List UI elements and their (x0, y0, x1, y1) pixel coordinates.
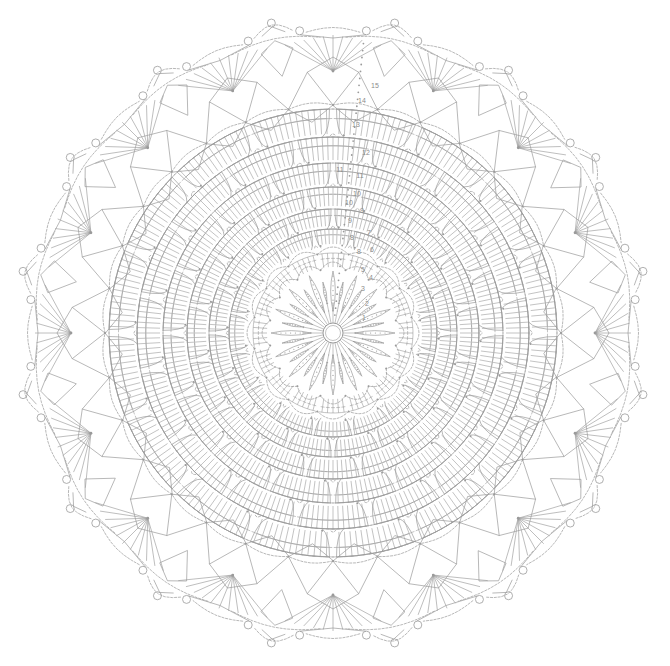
round-number-label: 9 (360, 207, 364, 214)
round-number-label: 1 (362, 314, 366, 321)
round-start-marker (359, 78, 361, 80)
round-start-marker (357, 98, 359, 100)
round-start-marker (335, 300, 337, 302)
round-start-marker (349, 168, 351, 170)
round-number-label: 15 (371, 82, 379, 89)
round-start-marker (361, 57, 363, 59)
round-start-marker (341, 245, 343, 247)
round-number-label: 12 (362, 149, 370, 156)
round-number-label: 8 (357, 248, 361, 255)
round-start-marker (352, 140, 354, 142)
doily-pattern-diagram: 123456789101112131415111098 (0, 0, 670, 666)
round-start-marker (337, 286, 339, 288)
round-start-marker (353, 133, 355, 135)
round-start-marker (342, 238, 344, 240)
round-start-marker (343, 231, 345, 233)
round-start-marker (360, 71, 362, 73)
round-start-marker (351, 154, 353, 156)
round-start-marker (355, 112, 357, 114)
round-number-label: 6 (370, 246, 374, 253)
round-start-marker (356, 105, 358, 107)
round-start-marker (357, 91, 359, 93)
round-number-label: 7 (367, 229, 371, 236)
round-start-marker (338, 279, 340, 281)
round-start-marker (358, 84, 360, 86)
round-start-marker (344, 217, 346, 219)
round-start-marker (340, 259, 342, 261)
round-number-label: 11 (356, 172, 363, 179)
round-number-label: 9 (348, 217, 352, 224)
round-number-label: 3 (361, 285, 365, 292)
round-number-label: 14 (358, 97, 366, 104)
round-start-marker (346, 196, 348, 198)
round-start-marker (354, 126, 356, 128)
round-number-label: 10 (345, 199, 353, 206)
round-number-label: 5 (361, 266, 365, 273)
round-start-marker (334, 314, 336, 316)
round-start-marker (338, 272, 340, 274)
round-start-marker (341, 252, 343, 254)
round-start-marker (347, 189, 349, 191)
round-start-marker (363, 43, 365, 45)
round-number-label: 8 (350, 234, 354, 241)
chart-background (0, 0, 670, 666)
round-start-marker (360, 64, 362, 66)
round-number-label: 4 (369, 274, 373, 281)
chart-canvas: 123456789101112131415111098 (0, 0, 670, 666)
round-start-marker (345, 210, 347, 212)
round-start-marker (339, 265, 341, 267)
round-number-label: 11 (336, 166, 343, 173)
round-start-marker (343, 224, 345, 226)
round-number-label: 10 (353, 190, 361, 197)
round-number-label: 2 (365, 300, 369, 307)
round-start-marker (335, 307, 337, 309)
round-start-marker (349, 175, 351, 177)
round-start-marker (354, 119, 356, 121)
round-start-marker (362, 50, 364, 52)
round-start-marker (352, 147, 354, 149)
round-start-marker (346, 203, 348, 205)
round-start-marker (348, 182, 350, 184)
round-number-label: 13 (352, 121, 360, 128)
round-start-marker (336, 293, 338, 295)
round-start-marker (350, 161, 352, 163)
